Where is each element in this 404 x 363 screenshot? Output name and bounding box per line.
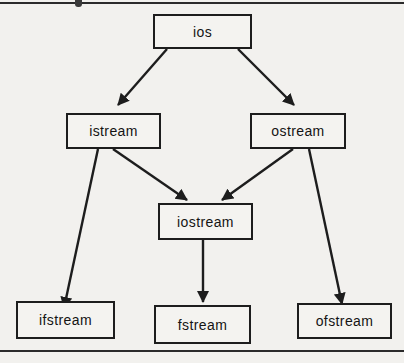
class-node-iostream: iostream xyxy=(158,203,253,240)
class-label-fstream: fstream xyxy=(178,317,227,333)
class-node-ifstream: ifstream xyxy=(16,301,115,339)
class-label-istream: istream xyxy=(89,123,138,139)
class-node-fstream: fstream xyxy=(154,305,251,344)
class-node-ostream: ostream xyxy=(250,113,346,149)
class-label-ios: ios xyxy=(193,24,212,40)
arrow-ios-to-ostream xyxy=(238,49,294,105)
arrow-ios-to-istream xyxy=(118,49,167,105)
class-node-ios: ios xyxy=(153,14,252,49)
scanned-diagram-page: ios istream ostream iostream ifstream fs… xyxy=(0,0,404,363)
class-label-ifstream: ifstream xyxy=(39,312,92,328)
bottom-horizontal-rule xyxy=(0,350,404,352)
class-label-ostream: ostream xyxy=(271,123,324,139)
arrow-ostream-to-ofstream xyxy=(309,149,342,304)
ink-artifact-mark xyxy=(75,0,82,7)
class-node-istream: istream xyxy=(66,113,161,149)
arrow-istream-to-ifstream xyxy=(64,149,98,308)
class-label-iostream: iostream xyxy=(177,214,234,230)
class-node-ofstream: ofstream xyxy=(297,303,392,339)
class-label-ofstream: ofstream xyxy=(316,313,374,329)
top-horizontal-rule xyxy=(0,2,404,4)
arrow-ostream-to-iostream xyxy=(222,149,293,200)
arrow-istream-to-iostream xyxy=(113,149,187,200)
